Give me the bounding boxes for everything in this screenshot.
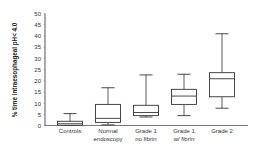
box-group <box>210 34 235 108</box>
y-tick-label: 15 <box>34 89 41 95</box>
box-group <box>134 75 159 117</box>
box-group <box>58 114 83 126</box>
y-tick-label: 40 <box>34 33 41 39</box>
x-category-label: Grade 1 <box>135 128 157 134</box>
box <box>96 104 121 122</box>
y-tick-label: 20 <box>34 78 41 84</box>
x-category-label: no fibrin <box>135 136 156 142</box>
box-plot-chart: % time intraesophageal pH< 4.0 051015202… <box>0 0 262 148</box>
y-tick-label: 30 <box>34 56 41 62</box>
x-category-label: Grade 2 <box>211 128 233 134</box>
box <box>172 89 197 104</box>
x-category-label: Grade 1 <box>173 128 195 134</box>
y-tick-label: 35 <box>34 44 41 50</box>
x-category-label: Normal <box>98 128 117 134</box>
y-tick-label: 5 <box>38 112 42 118</box>
box <box>210 73 235 97</box>
x-category-label: endoscopy <box>93 136 122 142</box>
y-tick-label: 10 <box>34 101 41 107</box>
y-axis-label: % time intraesophageal pH< 4.0 <box>11 22 19 117</box>
box <box>134 105 159 115</box>
y-tick-label: 50 <box>34 11 41 17</box>
y-tick-label: 25 <box>34 67 41 73</box>
y-tick-label: 45 <box>34 22 41 28</box>
box-group <box>172 74 197 115</box>
y-tick-label: 0 <box>38 123 42 129</box>
box-group <box>96 88 121 125</box>
x-category-label: Controls <box>59 128 81 134</box>
x-category-label: w/ fibrin <box>173 136 195 142</box>
